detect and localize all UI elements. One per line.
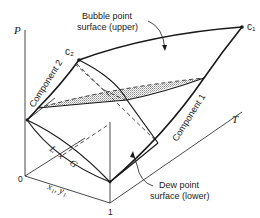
c2-label: c₂ [65, 46, 74, 57]
c1-label: c₁ [247, 21, 256, 32]
c1-point [240, 25, 244, 29]
lg-left-point [26, 119, 29, 122]
dew-label-line2: surface (lower) [150, 191, 210, 201]
one-tick-label: 1 [108, 207, 113, 217]
phase-diagram: P T 0 1 x₁, y₁ c₁ c₂ Component 2 Compone… [0, 0, 260, 218]
bubble-label-line2: surface (upper) [77, 22, 138, 32]
t-axis-label: T [232, 113, 239, 125]
component-2-label: Component 2 [27, 58, 64, 109]
p-axis-label: P [13, 24, 21, 36]
plus-region-label: + [58, 152, 63, 162]
lg-lens-upper [27, 120, 110, 182]
c2-point [77, 58, 81, 62]
x-axis-label: x₁, y₁ [45, 181, 68, 197]
dew-arrowhead [130, 151, 135, 158]
bubble-arrow-line [148, 21, 165, 49]
dew-surface-edge [110, 143, 158, 182]
origin-tick-label: 0 [18, 174, 23, 184]
bubble-label-line1: Bubble point [82, 11, 133, 21]
lg-right-point [109, 181, 112, 184]
mid-dashed-line [63, 125, 108, 155]
lg-lens-lower [27, 120, 110, 182]
bubble-arrowhead [162, 45, 167, 51]
dew-label-line1: Dew point [159, 180, 200, 190]
shaded-two-phase-section [38, 78, 204, 108]
g-region-label: G [68, 158, 80, 170]
